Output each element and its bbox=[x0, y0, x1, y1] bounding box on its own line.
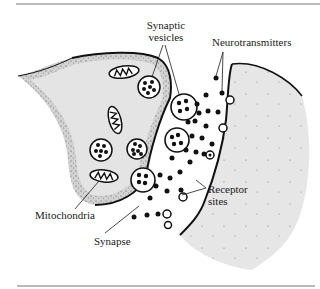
label-mitochondria-text: Mitochondria bbox=[35, 209, 95, 221]
receptor-site bbox=[163, 210, 171, 218]
vesicle bbox=[138, 76, 160, 98]
receptor-site bbox=[165, 222, 172, 229]
vesicle bbox=[127, 139, 147, 159]
label-neurotransmitters-text: Neurotransmitters bbox=[212, 36, 291, 48]
label-synapse-text: Synapse bbox=[94, 235, 131, 247]
receptor-site bbox=[226, 96, 234, 104]
receptor-site bbox=[209, 154, 212, 157]
label-synaptic-vesicles-line2: vesicles bbox=[149, 31, 184, 43]
synapse-diagram: Synaptic vesicles Neurotransmitters Mito… bbox=[0, 0, 320, 289]
vesicle bbox=[90, 139, 112, 161]
label-receptor-sites-line2: sites bbox=[208, 195, 228, 207]
label-synaptic-vesicles-line1: Synaptic bbox=[147, 19, 186, 31]
label-receptor-sites-line1: Receptor bbox=[208, 183, 248, 195]
receptor-site bbox=[219, 124, 227, 132]
